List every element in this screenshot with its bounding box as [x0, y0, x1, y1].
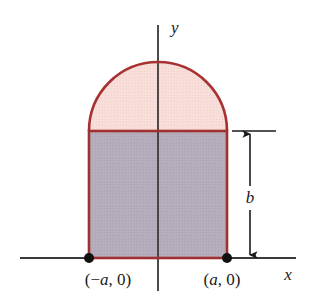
point-left-label: (−a, 0): [85, 270, 131, 289]
point-right-label: (a, 0): [204, 270, 241, 289]
point-right-marker: [222, 253, 232, 263]
dimension-label-b: b: [246, 188, 255, 207]
y-axis-label: y: [169, 18, 179, 37]
figure-svg-canvas: b (−a, 0) (a, 0) y x: [0, 0, 313, 302]
x-axis-label: x: [283, 265, 292, 284]
point-left-marker: [84, 253, 94, 263]
point-left-label-variable: a: [100, 270, 109, 289]
point-left-label-prefix: (−: [85, 270, 100, 289]
point-left-label-suffix: , 0): [109, 270, 132, 289]
point-right-label-suffix: , 0): [218, 270, 241, 289]
geometry-figure: b (−a, 0) (a, 0) y x: [0, 0, 313, 302]
point-right-label-variable: a: [209, 270, 218, 289]
